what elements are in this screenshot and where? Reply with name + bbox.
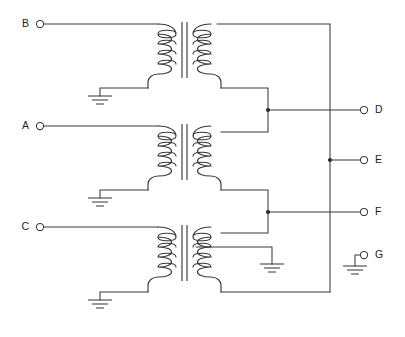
terminal-a-label: A [22,119,29,131]
terminal-c[interactable]: C [21,220,43,232]
ground-terminal-g-icon [343,266,367,274]
wire-primary-bottom-to-ground [100,292,148,300]
transformer-schematic: B A C D E F G [0,0,405,337]
terminal-f[interactable]: F [360,205,381,217]
junction-f-tap [266,210,270,214]
terminal-b-ring[interactable] [36,20,43,27]
terminal-c-label: C [21,220,29,232]
terminal-e[interactable]: E [360,153,382,165]
ground-primary-top-icon [88,96,112,104]
transformer-top [44,22,221,104]
core-top [182,22,187,78]
terminal-b[interactable]: B [22,17,44,29]
terminal-e-ring[interactable] [360,156,367,163]
ground-secondary-bottom-tap-icon [260,264,284,272]
schematic-canvas: B A C D E F G [0,0,405,337]
secondary-output-network [217,24,367,292]
coil-secondary-bottom [193,227,221,292]
junction-d-tap [266,108,270,112]
terminal-a[interactable]: A [22,119,44,131]
terminal-f-label: F [375,205,381,217]
terminal-g[interactable]: G [360,248,383,260]
core-middle [182,124,187,180]
coil-primary-middle [148,126,176,190]
wire-secondary-top-to-bus [217,24,330,292]
terminal-g-label: G [375,248,383,260]
core-bottom [182,225,187,281]
ground-primary-middle-icon [88,198,112,206]
junction-e-bus [328,158,332,162]
wire-g-to-ground [355,255,360,266]
transformer-bottom [44,225,284,308]
coil-primary-bottom [148,227,176,292]
terminal-g-ring[interactable] [360,251,367,258]
wire-f-node [221,190,268,233]
coil-primary-top [148,24,176,88]
ground-primary-bottom-icon [88,300,112,308]
coil-secondary-middle [193,126,221,190]
terminal-e-label: E [375,153,382,165]
wire-d-node [221,88,268,132]
terminal-d-ring[interactable] [360,106,367,113]
terminal-d[interactable]: D [360,103,383,115]
wire-primary-top-to-ground [100,88,148,96]
terminal-f-ring[interactable] [360,208,367,215]
terminal-a-ring[interactable] [36,122,43,129]
transformer-middle [44,124,221,206]
terminal-c-ring[interactable] [36,223,43,230]
wire-secondary-bottom-center-tap [196,247,272,264]
terminal-b-label: B [22,17,29,29]
terminal-d-label: D [375,103,383,115]
coil-secondary-top [193,24,221,88]
wire-primary-middle-to-ground [100,190,148,198]
